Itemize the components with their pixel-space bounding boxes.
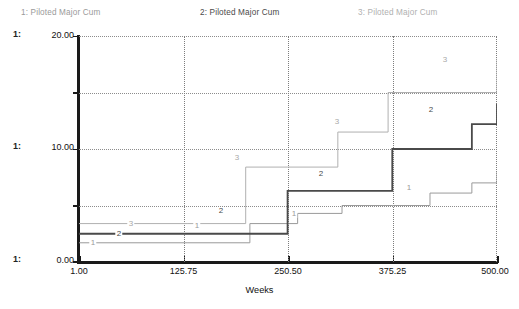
series-2-point-marker: 2: [427, 106, 434, 114]
x-axis-tick-label-1: 1.00: [49, 266, 109, 276]
legend-item-2: 2: Piloted Major Cum: [200, 8, 279, 17]
series-3-point-marker: 3: [127, 220, 134, 228]
series-1-point-marker: 1: [89, 239, 96, 247]
legend-item-3: 3: Piloted Major Cum: [358, 8, 437, 17]
series-3-point-marker: 3: [333, 118, 340, 126]
series-2-point-marker: 2: [217, 207, 224, 215]
legend-item-1: 1: Piloted Major Cum: [21, 8, 100, 17]
chart-canvas: 1: Piloted Major Cum 2: Piloted Major Cu…: [0, 0, 519, 309]
series-1-point-marker: 1: [193, 222, 200, 230]
series-2-point-marker: 2: [317, 170, 324, 178]
series-3-point-marker: 3: [441, 56, 448, 64]
series-1-point-marker: 1: [405, 184, 412, 192]
y-axis-tick-label-10: 10.00: [32, 142, 74, 152]
series-2-point-marker: 2: [115, 230, 122, 238]
y-axis-tick-label-0: 0.00: [32, 255, 74, 265]
y-scale-tag-mid: 1:: [13, 141, 21, 151]
plot-area: 123123123123: [79, 36, 497, 262]
x-axis-tick-label-250-50: 250.50: [258, 266, 318, 276]
series-1-point-marker: 1: [290, 210, 297, 218]
x-axis-tick-label-125-75: 125.75: [154, 266, 214, 276]
series-2-line: [79, 104, 497, 234]
y-scale-tag-bottom: 1:: [13, 254, 21, 264]
x-axis-tick-label-375-25: 375.25: [363, 266, 423, 276]
y-axis-tick-label-20: 20.00: [32, 30, 74, 40]
x-axis-title: Weeks: [0, 285, 519, 295]
y-scale-tag-top: 1:: [13, 29, 21, 39]
series-lines: [79, 36, 497, 262]
series-3-point-marker: 3: [233, 154, 240, 162]
x-axis-tick-label-500: 500.00: [465, 266, 519, 276]
x-axis-tick-mark-500: [497, 256, 499, 263]
